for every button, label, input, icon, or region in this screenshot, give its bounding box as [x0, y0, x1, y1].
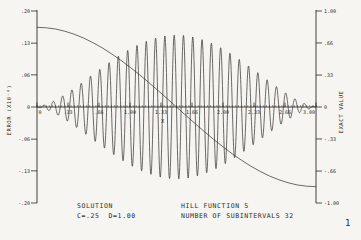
- y-axis-label-left: ERROR (X10⁻⁸): [6, 85, 12, 136]
- x-tick-label: .66: [95, 110, 104, 115]
- y-left-tick-label: -.20: [18, 201, 30, 206]
- footer-function-name: HILL FUNCTION 5: [181, 201, 249, 211]
- x-tick-label: 1.00: [124, 110, 136, 115]
- y-right-tick-label: -.66: [324, 169, 336, 174]
- y-right-tick-label: 0: [324, 105, 327, 110]
- x-tick-label: 2.33: [248, 110, 260, 115]
- footer-subintervals: NUMBER OF SUBINTERVALS 32: [181, 211, 294, 221]
- x-tick-label: 2.66: [279, 110, 291, 115]
- x-axis-label: X: [161, 118, 165, 124]
- y-right-tick-label: -.33: [324, 136, 336, 141]
- y-left-tick-label: -.13: [18, 168, 30, 173]
- x-tick-label: 1.66: [186, 110, 198, 115]
- footer-solution-title: SOLUTION: [77, 201, 113, 211]
- page-number: 1: [345, 218, 350, 228]
- y-left-tick-label: .06: [21, 72, 30, 77]
- y-left-tick-label: -.06: [18, 137, 30, 142]
- y-axis-label-right: EXACT VALUE: [338, 90, 344, 133]
- y-right-tick-label: .33: [324, 73, 333, 78]
- y-right-tick-label: -1.00: [324, 201, 339, 206]
- x-tick-label: 1.33: [155, 110, 167, 115]
- error-curve: [37, 35, 316, 178]
- y-right-tick-label: 1.00: [324, 9, 336, 14]
- y-left-tick-label: .13: [21, 41, 30, 46]
- footer-solution-params: C=.25 D=1.00: [77, 211, 136, 221]
- y-left-tick-label: .20: [21, 9, 30, 14]
- scanned-chart-page: .20.13.060-.06-.13-.201.00.66.330-.33-.6…: [0, 0, 361, 240]
- x-tick-label: .33: [63, 110, 72, 115]
- x-tick-label: 0: [38, 110, 41, 115]
- x-tick-label: 2.00: [217, 110, 229, 115]
- y-left-tick-label: 0: [27, 105, 30, 110]
- y-right-tick-label: .66: [324, 40, 333, 45]
- x-tick-label: 3.00: [303, 110, 315, 115]
